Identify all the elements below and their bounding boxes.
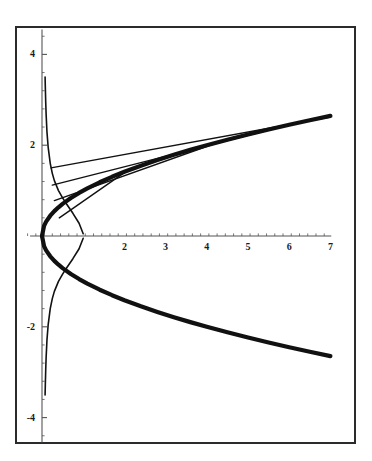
- curve-thin-branch-upper: [45, 77, 83, 234]
- secant-3-line: [54, 142, 219, 201]
- x-tick-label-4: 4: [204, 242, 209, 252]
- secant-2-line: [52, 124, 291, 185]
- curve-y-sqrt-x-: [42, 116, 330, 236]
- curve-y-sqrt-x-: [42, 236, 330, 356]
- figure-container: 234567-4-224: [0, 0, 372, 461]
- y-tick-label-4: 4: [30, 49, 35, 59]
- plot-canvas: [0, 0, 372, 461]
- x-tick-label-5: 5: [246, 242, 251, 252]
- y-tick-label-2: 2: [30, 140, 35, 150]
- x-tick-label-6: 6: [287, 242, 292, 252]
- curve-thin-branch-lower: [45, 238, 83, 395]
- y-tick-label-neg4: -4: [27, 413, 35, 423]
- y-tick-label-neg2: -2: [27, 322, 35, 332]
- x-tick-label-3: 3: [163, 242, 168, 252]
- secant-4-line: [59, 171, 126, 218]
- x-tick-label-2: 2: [122, 242, 127, 252]
- x-tick-label-7: 7: [328, 242, 333, 252]
